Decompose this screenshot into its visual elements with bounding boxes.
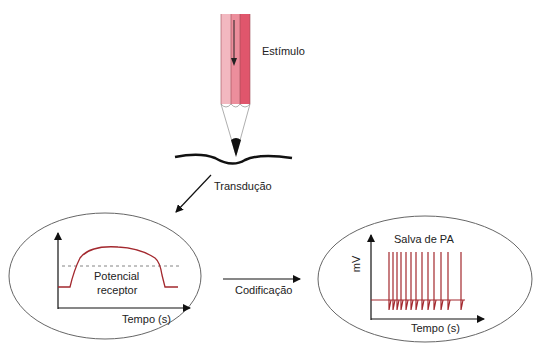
receptor-potential-label-2: receptor — [97, 284, 137, 296]
right-x-axis-label: Tempo (s) — [411, 322, 460, 334]
coding-label: Codificação — [235, 284, 292, 296]
stimulus-label: Estímulo — [262, 45, 305, 57]
pencil-icon — [221, 14, 250, 157]
left-x-axis-label: Tempo (s) — [122, 313, 171, 325]
receptor-potential-label-1: Potencial — [94, 270, 139, 282]
transduction-arrow — [176, 175, 211, 212]
transduction-label: Transdução — [214, 180, 272, 192]
mv-axis-label: mV — [350, 256, 362, 273]
skin-surface — [175, 155, 292, 164]
action-potential-spikes — [389, 252, 463, 310]
burst-title: Salva de PA — [394, 233, 454, 245]
